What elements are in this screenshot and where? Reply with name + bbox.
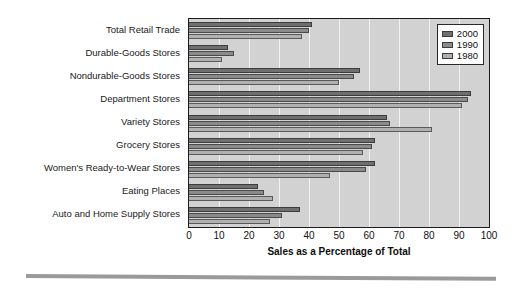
bar xyxy=(189,45,228,50)
bar xyxy=(189,190,264,195)
gridline xyxy=(429,19,430,227)
x-tick-label: 30 xyxy=(266,230,292,242)
x-tick-label: 50 xyxy=(326,230,352,242)
bar xyxy=(189,150,363,155)
legend-swatch-icon xyxy=(442,42,453,48)
bar xyxy=(189,97,468,102)
category-label: Women's Ready-to-Wear Stores xyxy=(0,163,180,173)
x-axis-ticks: 0102030405060708090100 xyxy=(188,230,490,244)
bar xyxy=(189,219,270,224)
bar xyxy=(189,127,432,132)
bar xyxy=(189,68,360,73)
category-label: Variety Stores xyxy=(0,117,180,127)
x-axis-title: Sales as a Percentage of Total xyxy=(188,246,490,257)
legend-label: 1980 xyxy=(457,51,478,61)
category-label: Grocery Stores xyxy=(0,140,180,150)
bar xyxy=(189,121,390,126)
category-label: Durable-Goods Stores xyxy=(0,48,180,58)
bottom-divider-rule xyxy=(26,274,496,281)
x-tick-label: 70 xyxy=(386,230,412,242)
bar xyxy=(189,57,222,62)
category-label: Auto and Home Supply Stores xyxy=(0,209,180,219)
bar xyxy=(189,173,330,178)
legend: 200019901980 xyxy=(437,24,484,65)
legend-swatch-icon xyxy=(442,31,453,37)
legend-item: 2000 xyxy=(442,28,478,39)
bar xyxy=(189,115,387,120)
bar xyxy=(189,161,375,166)
bar xyxy=(189,138,375,143)
bar xyxy=(189,80,339,85)
bar xyxy=(189,213,282,218)
x-tick-label: 40 xyxy=(296,230,322,242)
legend-item: 1980 xyxy=(442,50,478,61)
legend-label: 2000 xyxy=(457,29,478,39)
category-axis: Total Retail TradeDurable-Goods StoresNo… xyxy=(0,18,184,228)
bar xyxy=(189,28,309,33)
bar xyxy=(189,34,302,39)
x-tick-label: 80 xyxy=(416,230,442,242)
bar xyxy=(189,103,462,108)
category-label: Nondurable-Goods Stores xyxy=(0,71,180,81)
x-tick-label: 100 xyxy=(476,230,502,242)
bar xyxy=(189,74,354,79)
category-label: Department Stores xyxy=(0,94,180,104)
legend-item: 1990 xyxy=(442,39,478,50)
bar xyxy=(189,207,300,212)
plot-area: 200019901980 xyxy=(188,18,490,228)
bar xyxy=(189,167,366,172)
category-label: Eating Places xyxy=(0,186,180,196)
gridline xyxy=(489,19,490,227)
category-label: Total Retail Trade xyxy=(0,25,180,35)
x-tick-label: 60 xyxy=(356,230,382,242)
x-tick-label: 0 xyxy=(176,230,202,242)
legend-swatch-icon xyxy=(442,53,453,59)
bar xyxy=(189,196,273,201)
bar xyxy=(189,184,258,189)
legend-label: 1990 xyxy=(457,40,478,50)
x-tick-label: 20 xyxy=(236,230,262,242)
bar xyxy=(189,91,471,96)
bar xyxy=(189,144,372,149)
gridline xyxy=(399,19,400,227)
x-tick-label: 90 xyxy=(446,230,472,242)
x-tick-label: 10 xyxy=(206,230,232,242)
bar-chart: Total Retail TradeDurable-Goods StoresNo… xyxy=(0,0,517,290)
bar xyxy=(189,51,234,56)
bar xyxy=(189,22,312,27)
